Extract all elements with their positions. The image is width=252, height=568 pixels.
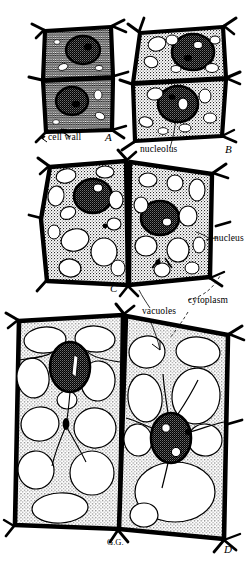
cell-b-bottom xyxy=(133,79,226,148)
panel-label-b: B xyxy=(225,144,232,155)
nucleus-d-right xyxy=(151,413,191,463)
nucleolus-a-top xyxy=(84,44,92,51)
cell-a-top xyxy=(43,27,113,80)
cell-d-right xyxy=(119,316,228,539)
nucleolus-b-top xyxy=(184,55,192,61)
nucleus-a-top xyxy=(66,36,100,64)
cell-c-right xyxy=(129,162,212,285)
label-vacuoles: vacuoles xyxy=(142,307,176,317)
nucleus-c-left xyxy=(74,179,112,213)
panel-b xyxy=(120,18,240,150)
nucleolus-c-right xyxy=(162,218,171,226)
cell-a-bottom xyxy=(43,78,113,132)
label-nucleus: nucleus xyxy=(214,234,244,244)
nucleus-d-left xyxy=(50,342,90,392)
label-cytoplasm: cytoplasm xyxy=(188,296,228,306)
nucleolus-a-bottom xyxy=(72,101,80,107)
nucleolus-d-right xyxy=(162,424,170,432)
label-cell-wall: cell wall xyxy=(48,133,81,143)
artist-signature: G.G. xyxy=(107,537,124,547)
panel-d xyxy=(4,304,244,552)
nucleolus-c-left xyxy=(93,184,102,192)
panel-label-a: A xyxy=(105,132,112,143)
label-nucleolus: nucleolus xyxy=(140,145,177,155)
panel-a xyxy=(29,20,128,142)
panel-label-c: C xyxy=(110,283,117,294)
nucleus-a-bottom xyxy=(56,87,88,115)
plant-cell-diagram xyxy=(0,0,252,568)
panel-label-d: D xyxy=(224,544,232,555)
nucleolus-b-bottom xyxy=(169,94,176,100)
cell-b-top xyxy=(133,27,226,83)
cell-c-left xyxy=(41,161,128,285)
panel-c xyxy=(29,150,230,296)
cell-d-left xyxy=(14,315,123,529)
